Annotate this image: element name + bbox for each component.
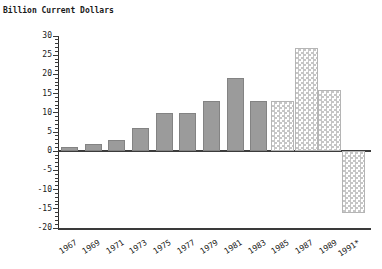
y-axis-major-tick (53, 189, 59, 190)
y-axis-minor-tick (55, 181, 59, 182)
y-axis-minor-tick (55, 89, 59, 90)
bar-1967 (61, 147, 78, 151)
bar-1979 (203, 101, 220, 151)
y-axis-minor-tick (55, 135, 59, 136)
y-axis-tick-label: -5 (23, 165, 52, 175)
y-axis-minor-tick (55, 39, 59, 40)
y-axis-minor-tick (55, 124, 59, 125)
x-axis-label: 1975 (152, 238, 173, 256)
x-axis-label: 1981 (223, 238, 244, 256)
x-axis-label: 1989 (317, 238, 338, 256)
bar-1971 (108, 140, 125, 152)
y-axis-minor-tick (55, 43, 59, 44)
y-axis-minor-tick (55, 47, 59, 48)
y-axis-minor-tick (55, 197, 59, 198)
y-axis-tick-label: 15 (23, 89, 52, 99)
y-axis-minor-tick (55, 143, 59, 144)
y-axis-minor-tick (55, 51, 59, 52)
y-axis-minor-tick (55, 201, 59, 202)
bar-1985 (271, 101, 294, 151)
y-axis-minor-tick (55, 82, 59, 83)
y-axis-minor-tick (55, 162, 59, 163)
x-axis-label: 1991* (337, 238, 362, 258)
x-axis-label: 1987 (294, 238, 315, 256)
y-axis-tick-label: 10 (23, 108, 52, 118)
x-axis-label: 1973 (128, 238, 149, 256)
y-axis-minor-tick (55, 101, 59, 102)
y-axis-minor-tick (55, 85, 59, 86)
y-axis-major-tick (53, 132, 59, 133)
y-axis-major-tick (53, 228, 59, 229)
x-axis-label: 1967 (57, 238, 78, 256)
y-axis-major-tick (53, 170, 59, 171)
bar-1987 (295, 48, 318, 152)
x-axis-label: 1969 (81, 238, 102, 256)
plot-area: 302520151050-5-10-15-2019671969197119731… (58, 36, 371, 230)
chart-canvas: Billion Current Dollars 302520151050-5-1… (0, 0, 382, 269)
y-axis-minor-tick (55, 97, 59, 98)
x-axis-label: 1983 (246, 238, 267, 256)
y-axis-minor-tick (55, 128, 59, 129)
y-axis-major-tick (53, 112, 59, 113)
y-axis-tick-label: 20 (23, 69, 52, 79)
y-axis-tick-label: -15 (23, 204, 52, 214)
y-axis-minor-tick (55, 108, 59, 109)
y-axis-tick-label: 30 (23, 31, 52, 41)
y-axis-major-tick (53, 36, 59, 37)
bar-1973 (132, 128, 149, 151)
y-axis-minor-tick (55, 174, 59, 175)
y-axis-minor-tick (55, 158, 59, 159)
y-axis-minor-tick (55, 120, 59, 121)
y-axis-minor-tick (55, 147, 59, 148)
y-axis-minor-tick (55, 66, 59, 67)
y-axis-minor-tick (55, 178, 59, 179)
y-axis-major-tick (53, 74, 59, 75)
y-axis-tick-label: -20 (23, 223, 52, 233)
y-axis-tick-label: 25 (23, 50, 52, 60)
bar-1975 (156, 113, 173, 151)
y-axis-major-tick (53, 55, 59, 56)
y-axis-major-tick (53, 93, 59, 94)
bar-1989 (318, 90, 341, 151)
y-axis-minor-tick (55, 220, 59, 221)
y-axis-minor-tick (55, 166, 59, 167)
y-axis-minor-tick (55, 59, 59, 60)
y-axis-minor-tick (55, 62, 59, 63)
x-axis-label: 1979 (199, 238, 220, 256)
bar-1983 (250, 101, 267, 151)
y-axis-minor-tick (55, 216, 59, 217)
y-axis-minor-tick (55, 116, 59, 117)
bar-1981 (227, 78, 244, 151)
y-axis-minor-tick (55, 139, 59, 140)
y-axis-minor-tick (55, 193, 59, 194)
y-axis-minor-tick (55, 224, 59, 225)
bar-1969 (85, 144, 102, 152)
y-axis-minor-tick (55, 204, 59, 205)
y-axis-minor-tick (55, 155, 59, 156)
x-axis-label: 1985 (270, 238, 291, 256)
x-axis-label: 1971 (104, 238, 125, 256)
chart-title: Billion Current Dollars (3, 6, 114, 15)
y-axis-minor-tick (55, 212, 59, 213)
y-axis-tick-label: 0 (23, 146, 52, 156)
y-axis-tick-label: -10 (23, 185, 52, 195)
y-axis-minor-tick (55, 185, 59, 186)
y-axis-minor-tick (55, 70, 59, 71)
x-axis-label: 1977 (175, 238, 196, 256)
y-axis-minor-tick (55, 78, 59, 79)
y-axis-minor-tick (55, 105, 59, 106)
bar-1977 (179, 113, 196, 151)
y-axis-major-tick (53, 208, 59, 209)
bar-1991 (342, 151, 365, 212)
y-axis-tick-label: 5 (23, 127, 52, 137)
